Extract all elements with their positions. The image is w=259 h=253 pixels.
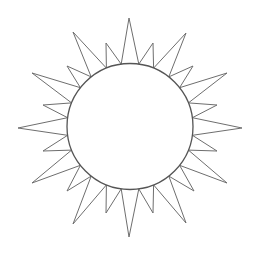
short-ray (43, 103, 72, 118)
long-ray (192, 118, 242, 136)
short-ray (43, 135, 72, 151)
sun-disc (67, 64, 193, 190)
sun-drawing (0, 0, 259, 253)
long-ray (18, 118, 68, 136)
long-ray (121, 18, 139, 64)
short-ray (188, 135, 217, 151)
long-ray (121, 189, 139, 237)
short-ray (188, 103, 217, 118)
